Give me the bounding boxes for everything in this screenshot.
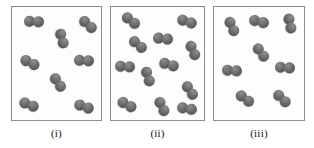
atom-sphere [167,59,181,73]
atom-sphere [161,33,173,45]
diatomic-molecule [77,14,99,36]
atom-sphere [56,36,70,50]
diatomic-molecule [176,101,198,115]
panel-ii-caption: (ii) [110,126,205,140]
atom-sphere [83,55,94,66]
atom-sphere [257,16,270,29]
diatomic-molecule [275,61,296,73]
atom-sphere [284,21,297,34]
panel-i-contents [12,7,101,120]
diatomic-molecule [24,15,45,27]
diatomic-molecule [116,95,139,114]
diatomic-molecule [115,60,136,72]
panel-iii [213,6,305,121]
atom-sphere [185,103,198,116]
atom-sphere [33,16,45,28]
panel-ii-contents [111,7,204,120]
diatomic-molecule [73,98,96,115]
diatomic-molecule [248,14,270,30]
panel-i [11,6,102,121]
diatomic-molecule [153,95,172,118]
atom-sphere [81,101,95,115]
panel-ii [110,6,205,121]
diatomic-molecule [176,13,198,30]
diatomic-molecule [120,10,143,31]
atom-sphere [184,16,198,30]
atom-sphere [231,65,243,77]
diatomic-molecule [158,56,180,72]
diatomic-molecule [152,32,173,45]
diatomic-molecule [283,13,298,35]
diatomic-molecule [54,27,70,49]
diatomic-molecule [222,64,243,76]
diatomic-molecule [74,55,94,67]
panel-iii-caption: (iii) [213,126,305,140]
diatomic-molecule [127,34,149,55]
diatomic-molecule [271,88,293,110]
diatomic-molecule [184,39,202,62]
diatomic-molecule [19,53,42,72]
diatomic-molecule [234,88,257,109]
caption-row: (i)(ii)(iii) [0,126,314,146]
diatomic-molecule [223,15,241,38]
panel-iii-contents [214,7,304,120]
atom-sphere [142,74,156,88]
molecule-comparison-figure: (i)(ii)(iii) [0,0,314,148]
diatomic-molecule [140,65,157,87]
panel-i-caption: (i) [11,126,102,140]
diatomic-molecule [251,41,272,64]
atom-sphere [124,61,136,73]
atom-sphere [284,62,296,74]
diatomic-molecule [18,96,41,114]
diatomic-molecule [48,71,68,94]
diatomic-molecule [180,79,200,102]
